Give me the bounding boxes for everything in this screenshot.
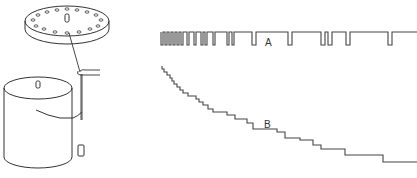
trace-b [162,66,417,162]
drum-thread [36,110,82,118]
string [69,33,82,120]
spindle [65,14,69,22]
drum [4,77,82,168]
trace-b-label: B [264,119,271,130]
trace-a-label: A [265,37,272,48]
figure: A B [0,0,417,178]
trace-a [161,32,417,45]
perforated-disc [25,6,109,44]
weight [78,145,84,156]
